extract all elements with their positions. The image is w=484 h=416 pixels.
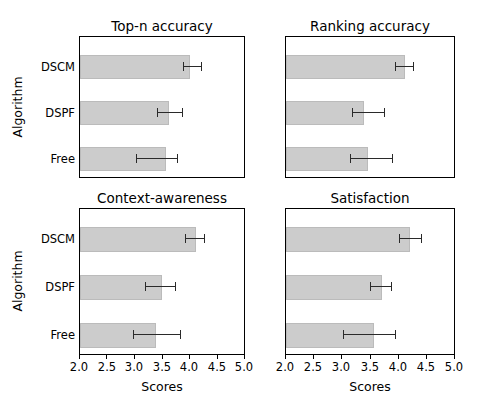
xtick-label-5-0-satisfaction: 5.0 — [439, 361, 469, 373]
errorbar-cap-low-free-context — [133, 330, 134, 339]
errorbar-cap-high-free-satisfaction — [395, 330, 396, 339]
errorbar-line-free-ranking — [350, 158, 393, 159]
xtick-label-4-5-satisfaction: 4.5 — [411, 361, 441, 373]
errorbar-line-dspf-ranking — [352, 112, 385, 113]
bar-dscm-top-n — [80, 55, 190, 79]
xtick-label-2-5-satisfaction: 2.5 — [298, 361, 328, 373]
xtick-mark-3-0-satisfaction — [341, 355, 342, 359]
xtick-mark-4-0-satisfaction — [398, 355, 399, 359]
errorbar-cap-high-dscm-satisfaction — [421, 234, 422, 243]
errorbar-cap-high-dspf-context — [175, 282, 176, 291]
xtick-label-3-5-satisfaction: 3.5 — [355, 361, 385, 373]
errorbar-line-dspf-top-n — [157, 112, 183, 113]
errorbar-cap-low-free-top-n — [136, 154, 137, 163]
panel-title-top-n-accuracy: Top-n accuracy — [79, 18, 245, 34]
xaxis-title-satisfaction: Scores — [285, 380, 455, 394]
xaxis-title-context: Scores — [79, 380, 245, 394]
errorbar-cap-high-dscm-context — [204, 234, 205, 243]
errorbar-cap-low-free-satisfaction — [343, 330, 344, 339]
xtick-mark-2-5-context — [106, 355, 107, 359]
errorbar-cap-low-dscm-top-n — [183, 62, 184, 71]
bar-dscm-satisfaction — [286, 227, 410, 252]
xtick-label-5-0-context: 5.0 — [229, 361, 259, 373]
xtick-mark-3-0-context — [134, 355, 135, 359]
xtick-label-2-0-context: 2.0 — [64, 361, 94, 373]
errorbar-cap-high-dscm-ranking — [413, 62, 414, 71]
errorbar-cap-low-dspf-top-n — [157, 108, 158, 117]
figure-canvas: Top-n accuracy DSCM DSPF Free Algorithm … — [0, 0, 484, 416]
errorbar-line-free-satisfaction — [343, 334, 396, 335]
bar-free-context — [80, 323, 156, 348]
xtick-label-2-0-satisfaction: 2.0 — [270, 361, 300, 373]
xtick-label-2-5-context: 2.5 — [92, 361, 122, 373]
bar-dscm-ranking — [286, 55, 405, 79]
errorbar-line-dscm-ranking — [395, 66, 414, 67]
errorbar-line-dscm-context — [185, 238, 205, 239]
bar-dspf-top-n — [80, 101, 169, 125]
ytick-label-free-context: Free — [15, 329, 75, 341]
errorbar-cap-low-dscm-satisfaction — [399, 234, 400, 243]
xtick-mark-4-5-satisfaction — [426, 355, 427, 359]
errorbar-cap-low-free-ranking — [350, 154, 351, 163]
xtick-mark-5-0-context — [244, 355, 245, 359]
errorbar-line-dspf-context — [145, 286, 176, 287]
xtick-mark-3-5-satisfaction — [370, 355, 371, 359]
bar-dscm-context — [80, 227, 196, 252]
errorbar-cap-low-dscm-context — [185, 234, 186, 243]
errorbar-line-free-top-n — [136, 158, 178, 159]
errorbar-line-dspf-satisfaction — [370, 286, 392, 287]
xtick-mark-2-5-satisfaction — [313, 355, 314, 359]
errorbar-cap-high-dspf-satisfaction — [391, 282, 392, 291]
errorbar-cap-low-dspf-satisfaction — [370, 282, 371, 291]
errorbar-cap-high-dscm-top-n — [201, 62, 202, 71]
xtick-mark-3-5-context — [162, 355, 163, 359]
errorbar-line-free-context — [133, 334, 181, 335]
xtick-mark-2-0-satisfaction — [285, 355, 286, 359]
errorbar-cap-low-dspf-context — [145, 282, 146, 291]
bar-dspf-context — [80, 275, 162, 300]
yaxis-title-context: Algorithm — [11, 241, 25, 321]
xtick-label-3-5-context: 3.5 — [147, 361, 177, 373]
xtick-label-4-5-context: 4.5 — [202, 361, 232, 373]
xtick-mark-5-0-satisfaction — [454, 355, 455, 359]
bar-dspf-satisfaction — [286, 275, 382, 300]
errorbar-cap-low-dscm-ranking — [395, 62, 396, 71]
errorbar-cap-high-free-ranking — [392, 154, 393, 163]
yaxis-title-top-n: Algorithm — [11, 67, 25, 147]
errorbar-line-dscm-satisfaction — [399, 238, 422, 239]
xtick-mark-4-5-context — [217, 355, 218, 359]
xtick-label-4-0-context: 4.0 — [174, 361, 204, 373]
errorbar-cap-low-dspf-ranking — [352, 108, 353, 117]
xtick-label-3-0-context: 3.0 — [119, 361, 149, 373]
panel-title-ranking-accuracy: Ranking accuracy — [285, 18, 455, 34]
bar-free-satisfaction — [286, 323, 374, 348]
xtick-mark-2-0-context — [79, 355, 80, 359]
errorbar-cap-high-free-context — [180, 330, 181, 339]
xtick-label-3-0-satisfaction: 3.0 — [326, 361, 356, 373]
errorbar-cap-high-free-top-n — [177, 154, 178, 163]
panel-title-context-awareness: Context-awareness — [79, 190, 245, 206]
errorbar-cap-high-dspf-top-n — [182, 108, 183, 117]
errorbar-cap-high-dspf-ranking — [384, 108, 385, 117]
panel-title-satisfaction: Satisfaction — [285, 190, 455, 206]
xtick-mark-4-0-context — [189, 355, 190, 359]
ytick-label-free-top-n: Free — [15, 153, 75, 165]
errorbar-line-dscm-top-n — [183, 66, 202, 67]
xtick-label-4-0-satisfaction: 4.0 — [383, 361, 413, 373]
